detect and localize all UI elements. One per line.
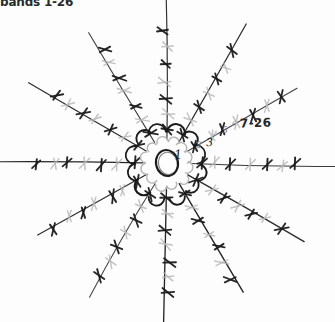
chain-loop-arc-inner xyxy=(155,184,168,192)
stitch-limb xyxy=(275,90,288,103)
stitch-symbol-cross xyxy=(159,94,172,104)
chart-ink-group xyxy=(0,0,335,322)
round-number-4: 4 xyxy=(213,130,217,138)
stitch-symbol-cross xyxy=(259,212,271,225)
stitch-symbol-cross xyxy=(192,100,206,113)
stitch-symbol-cross xyxy=(134,200,148,213)
stitch-symbol-cross xyxy=(87,196,101,211)
stitch-symbol-cross xyxy=(118,226,132,240)
stitch-limb xyxy=(259,212,270,223)
stitch-symbol-cross xyxy=(183,113,198,127)
stitch-symbol-cross xyxy=(61,97,75,112)
stitch-limb xyxy=(117,84,131,98)
stitch-symbol-cross xyxy=(98,43,112,56)
chain-loop-arc-inner xyxy=(140,152,146,163)
stitch-symbol-cross xyxy=(50,88,64,102)
chain-loop-arc-inner xyxy=(156,135,168,143)
stitch-symbol-cross xyxy=(161,287,174,298)
stitch-limb xyxy=(87,197,100,210)
stitch-limb xyxy=(135,200,147,212)
stitch-symbol-cross xyxy=(224,43,239,58)
stitch-symbol-cross xyxy=(50,158,60,170)
stitch-symbol-cross xyxy=(76,105,91,121)
stitch-symbol-cross xyxy=(63,209,75,223)
round-number-1: 1 xyxy=(173,147,183,163)
stitch-symbol-cross xyxy=(112,158,122,171)
stitch-symbol-cross xyxy=(103,254,119,269)
stitch-limb xyxy=(215,256,229,270)
stitch-symbol-cross xyxy=(104,123,117,137)
stitch-symbol-cross xyxy=(263,159,272,171)
chart-spoke-line xyxy=(0,162,143,163)
round-number-2: 2 xyxy=(196,140,202,150)
stitch-limb xyxy=(224,273,237,285)
stitch-symbol-cross xyxy=(290,157,300,170)
stitch-limb xyxy=(113,72,127,85)
stitch-symbol-cross xyxy=(131,138,145,153)
stitch-symbol-cross xyxy=(274,89,288,104)
stitch-symbol-cross xyxy=(80,157,90,170)
stitch-symbol-cross xyxy=(246,158,256,170)
stitch-limb xyxy=(193,101,206,113)
stitch-symbol-cross xyxy=(245,207,258,221)
stitch-symbol-cross xyxy=(205,182,219,197)
chain-loop-arc-inner xyxy=(167,182,178,191)
stitch-symbol-cross xyxy=(96,159,106,172)
stitch-symbol-cross xyxy=(274,221,289,237)
stitch-limb xyxy=(119,226,132,238)
stitch-limb xyxy=(260,99,273,112)
annotation-rounds-7-26: 7-26 xyxy=(240,116,272,131)
stitch-symbol-cross xyxy=(129,100,142,112)
stitch-symbol-cross xyxy=(62,157,71,168)
stitch-symbol-cross xyxy=(161,209,173,219)
stitch-symbol-cross xyxy=(210,156,220,168)
crochet-chart-diagram xyxy=(0,0,335,322)
stitch-symbol-cross xyxy=(134,112,150,127)
stitch-limb xyxy=(78,207,89,219)
chart-spoke-line xyxy=(188,175,304,242)
stitch-symbol-cross xyxy=(175,128,190,142)
chart-canvas: bands 1-26 7-26 1 2 3 4 5 6 xyxy=(0,0,335,322)
chain-loop-arc-inner xyxy=(140,163,147,175)
stitch-limb xyxy=(105,123,117,135)
stitch-limb xyxy=(130,101,141,112)
stitch-symbol-cross xyxy=(116,83,132,98)
chart-spoke-line xyxy=(89,33,155,143)
stitch-symbol-cross xyxy=(161,60,171,68)
stitch-limb xyxy=(110,240,123,253)
stitch-limb xyxy=(204,229,215,240)
stitch-symbol-cross xyxy=(260,98,273,113)
stitch-symbol-cross xyxy=(226,158,236,170)
chain-loop-arc-inner xyxy=(181,176,191,186)
stitch-symbol-cross xyxy=(157,76,171,87)
stitch-symbol-cross xyxy=(112,71,128,85)
stitch-symbol-cross xyxy=(162,109,175,119)
chain-loop-arc-inner xyxy=(169,136,180,143)
stitch-symbol-cross xyxy=(214,255,230,270)
chart-spoke-line xyxy=(166,0,167,139)
round-number-5: 5 xyxy=(222,125,228,135)
stitch-symbol-cross xyxy=(109,240,124,254)
stitch-symbol-cross xyxy=(203,229,216,241)
stitch-symbol-cross xyxy=(32,159,40,170)
stitch-limb xyxy=(275,222,289,236)
round-number-6: 6 xyxy=(232,120,236,128)
chart-spoke-line xyxy=(164,187,167,322)
stitch-limb xyxy=(129,214,142,227)
chart-spoke-line xyxy=(29,83,147,151)
